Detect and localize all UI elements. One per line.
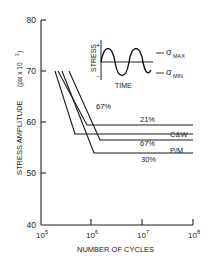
label-67pct-top: 67% (96, 102, 111, 111)
y-tick-70: 70 (27, 66, 37, 76)
svg-text:σ: σ (166, 67, 172, 77)
svg-text:7: 7 (146, 229, 149, 235)
label-21pct: 21% (140, 115, 155, 124)
y-axis-title: STRESS AMPLITUDE (psi x 10 3 ) (15, 51, 24, 175)
y-tick-60: 60 (27, 117, 37, 127)
fatigue-chart: 80 70 60 50 40 105 106 107 108 NUMBER OF… (0, 0, 209, 259)
y-tick-50: 50 (27, 168, 37, 178)
svg-text:σ: σ (166, 47, 172, 57)
svg-text:STRESS AMPLITUDE: STRESS AMPLITUDE (15, 100, 24, 175)
x-axis-title: NUMBER OF CYCLES (77, 245, 154, 254)
y-tick-40: 40 (27, 220, 37, 230)
inset-time-label: TIME (115, 82, 132, 89)
inset-diagram: STRESS + - TIME σ MAX σ MIN (90, 40, 185, 89)
label-cw: C&W (170, 130, 188, 139)
sigma-min-label: MIN (173, 73, 183, 79)
y-tick-80: 80 (27, 15, 37, 25)
svg-text:5: 5 (45, 229, 48, 235)
x-tick-labels: 105 106 107 108 (36, 229, 200, 240)
svg-text:(psi x 10: (psi x 10 (16, 62, 24, 87)
line-21pct (58, 71, 193, 125)
svg-text:6: 6 (95, 229, 98, 235)
svg-text:): ) (16, 51, 24, 53)
label-30pct: 30% (141, 155, 156, 164)
sigma-max-label: MAX (173, 53, 185, 59)
inset-plus: + (96, 42, 100, 49)
inset-minus: - (97, 72, 100, 79)
label-pm: P/M (170, 146, 183, 155)
label-67pct: 67% (140, 139, 155, 148)
svg-text:8: 8 (197, 229, 200, 235)
